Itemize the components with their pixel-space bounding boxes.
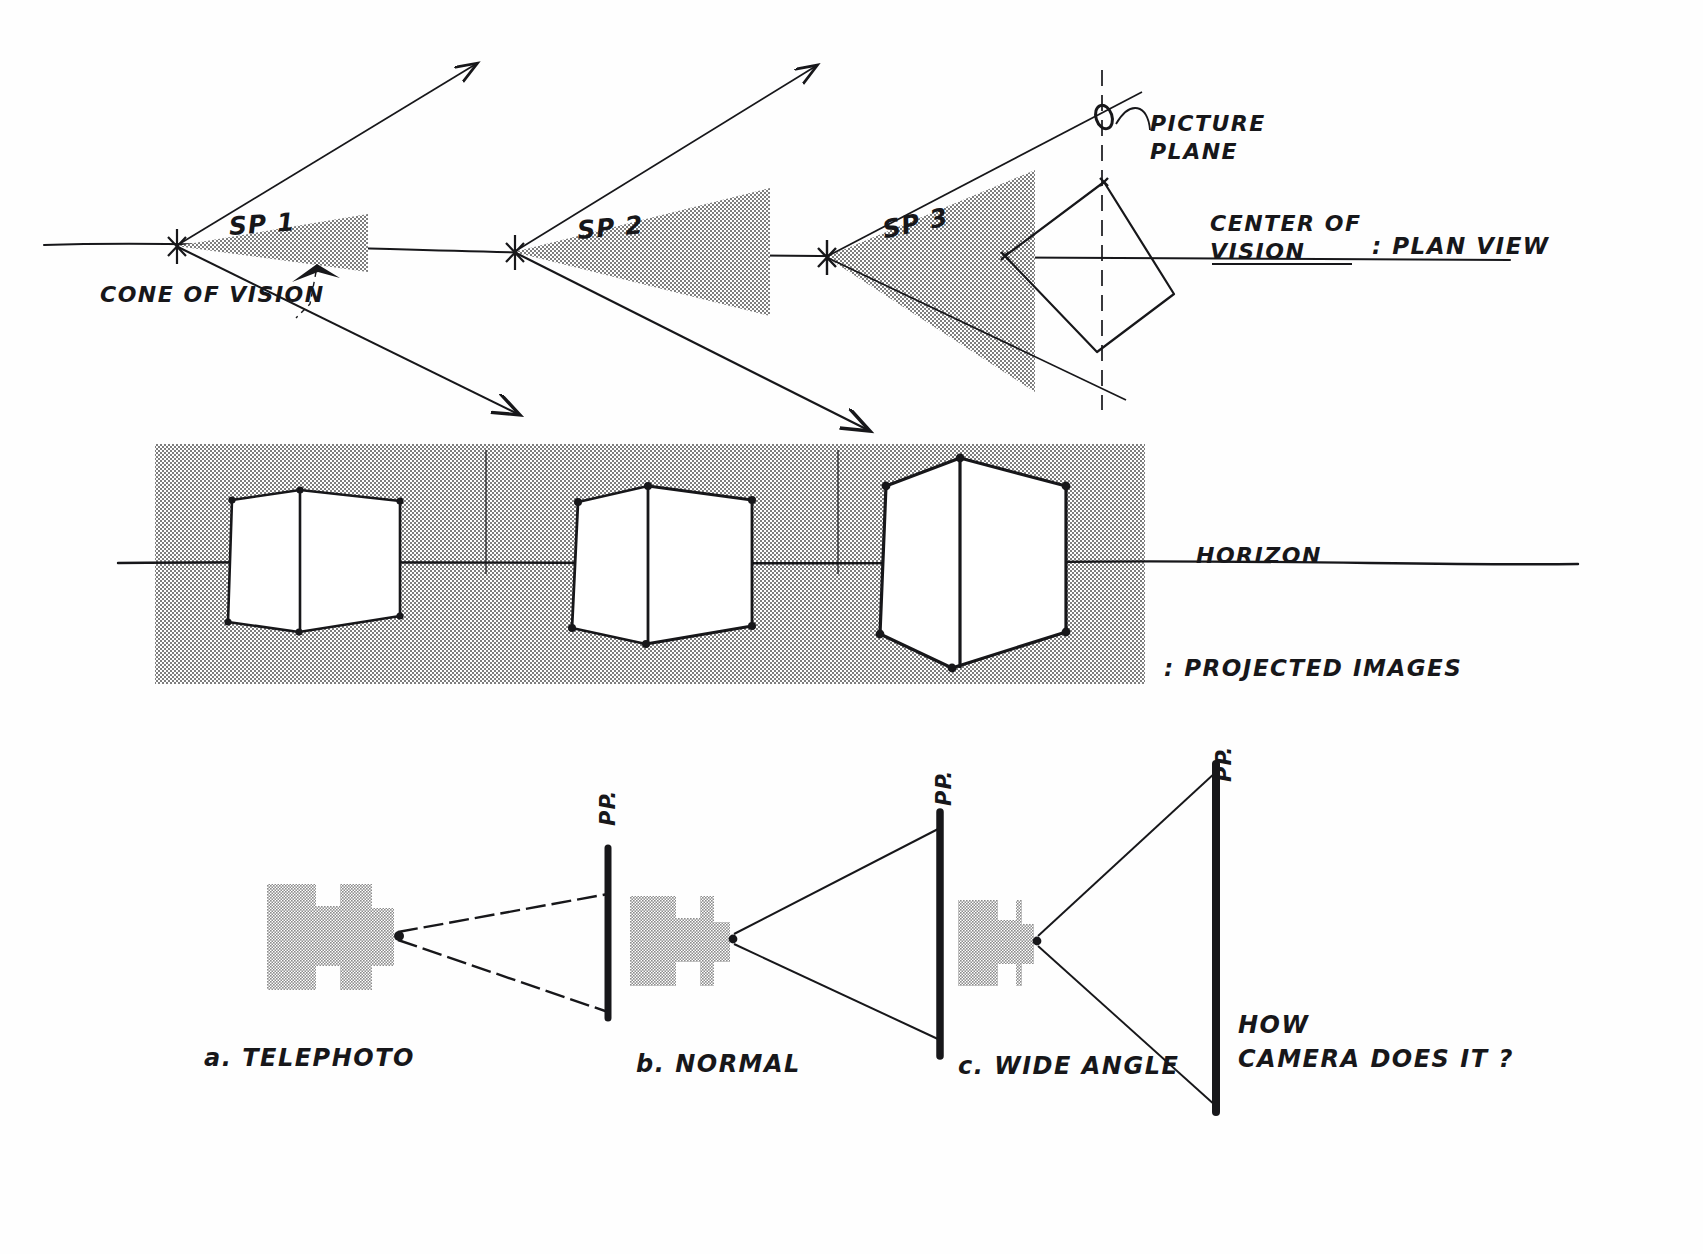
picture-plane-tag-b: PP. [596, 790, 620, 826]
normal-ray-lower [734, 944, 940, 1040]
cube-1-corner [396, 497, 403, 504]
cube-2-corner [642, 640, 650, 648]
center-of-vision-line2: VISION [1210, 238, 1361, 266]
projected-cube-3 [876, 454, 1071, 673]
cube-3-corner [882, 482, 891, 491]
normal-body-tone [630, 896, 730, 986]
station-point-2-label: SP 2 [576, 210, 645, 245]
projected-cube-1 [224, 486, 403, 635]
lens-label-wide-angle: c. WIDE ANGLE [958, 1052, 1179, 1080]
cube-3-corner [956, 454, 965, 463]
cube-3-corner [876, 630, 885, 639]
cube-1-corner [295, 628, 302, 635]
cone-of-vision-label: CONE OF VISION [100, 282, 325, 307]
cube-1-corner [228, 496, 235, 503]
how-camera-line2: CAMERA DOES IT ? [1238, 1042, 1514, 1076]
drawing-canvas: CONE OF VISION SP 1 SP 2 SP 3 PICTURE PL… [0, 0, 1703, 1254]
telephoto-ray-lower [398, 940, 608, 1012]
cube-3-outline [880, 458, 1066, 668]
picture-plane-label-line1: PICTURE [1150, 110, 1266, 138]
cube-1-corner [396, 612, 403, 619]
cube-2-corner [568, 624, 576, 632]
cube-1-corner [224, 618, 231, 625]
horizon-label: HORIZON [1196, 543, 1322, 568]
wideangle-nodal-point [1033, 937, 1042, 946]
wideangle-ray-lower [1038, 946, 1216, 1106]
center-of-vision-label: CENTER OF VISION [1210, 210, 1361, 266]
normal-ray-upper [734, 828, 940, 934]
cube-3-corner [1062, 482, 1071, 491]
picture-plane-label-line2: PLANE [1150, 138, 1266, 166]
telephoto-body-tone [267, 884, 394, 990]
center-of-vision-line1: CENTER OF [1210, 210, 1361, 238]
lens-label-telephoto: a. TELEPHOTO [204, 1044, 415, 1072]
how-camera-line1: HOW [1238, 1008, 1514, 1042]
cube-2-outline [572, 486, 752, 644]
station-point-1-label: SP 1 [228, 207, 296, 241]
how-camera-does-it-note: HOW CAMERA DOES IT ? [1238, 1008, 1514, 1076]
camera-normal [630, 828, 940, 1040]
sp1-lower-ray [176, 246, 518, 414]
camera-telephoto [267, 884, 608, 1012]
cube-3-corner [1062, 628, 1071, 637]
picture-plane-label: PICTURE PLANE [1150, 110, 1266, 166]
cube-1-outline [228, 490, 400, 632]
picture-plane-tag-d: PP. [1212, 746, 1236, 782]
sp1-upper-ray [176, 64, 476, 246]
telephoto-nodal-point [394, 931, 404, 941]
wideangle-ray-upper [1038, 772, 1216, 936]
projected-cube-2 [568, 482, 756, 648]
wideangle-body-tone [958, 900, 1034, 986]
plan-view-section-label: : PLAN VIEW [1372, 233, 1550, 259]
telephoto-ray-upper [398, 894, 608, 932]
lens-label-normal: b. NORMAL [636, 1050, 801, 1078]
cone-of-vision-sp2-tone [514, 188, 770, 316]
picture-plane-leader [1116, 108, 1150, 130]
cube-2-corner [748, 622, 756, 630]
cube-2-corner [748, 496, 756, 504]
projected-images-group [118, 444, 1578, 684]
cube-1-corner [296, 486, 303, 493]
projected-images-section-label: : PROJECTED IMAGES [1164, 655, 1462, 681]
picture-plane-tag-c: PP. [932, 770, 956, 806]
cube-3-corner [948, 664, 957, 673]
cube-2-corner [644, 482, 652, 490]
normal-nodal-point [729, 935, 738, 944]
cube-2-corner [574, 498, 582, 506]
